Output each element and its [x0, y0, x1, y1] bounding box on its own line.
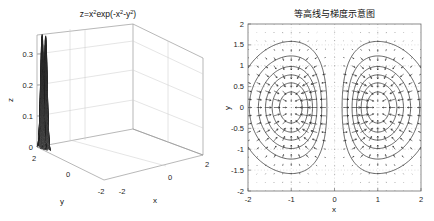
title-tail: ) [133, 9, 136, 19]
contour-y-tick-5: -0.5 [231, 124, 244, 133]
contour-x-tick-2: 0 [332, 195, 336, 204]
contour-x-tick-1: -1 [288, 195, 295, 204]
z-axis-label: z [6, 98, 15, 102]
y-tick-2: -2 [98, 187, 105, 196]
z-tick-3: 0.3 [23, 50, 33, 59]
z-tick-1: 0.1 [23, 112, 33, 121]
contour-plot-title: 等高线与梯度示意图 [294, 8, 375, 19]
surface-plot-panel: z=x2exp(-x2-y2) [0, 0, 217, 221]
contour-y-tick-2: 1 [240, 61, 244, 70]
contour-y-tick-8: -2 [237, 187, 244, 196]
contour-x-tick-4: 2 [419, 195, 423, 204]
z-tick-2: 0.2 [23, 81, 33, 90]
contour-y-tick-7: -1.5 [231, 166, 244, 175]
y-tick-0: 2 [32, 154, 36, 163]
y-tick-1: 0 [66, 170, 70, 179]
surface-plot-svg: z=x2exp(-x2-y2) [0, 0, 217, 221]
x-tick-2: 2 [205, 160, 209, 169]
figure-canvas: z=x2exp(-x2-y2) [0, 0, 434, 221]
contour-plot-panel: 等高线与梯度示意图 21.510.50-0.5-1-1.5-2 -2-1012 … [217, 0, 434, 221]
z-tick-0: 0 [29, 143, 33, 152]
contour-y-tick-6: -1 [237, 145, 244, 154]
contour-y-tick-3: 0.5 [234, 82, 244, 91]
surface-mesh [37, 35, 51, 152]
contour-plot-svg: 等高线与梯度示意图 21.510.50-0.5-1-1.5-2 -2-1012 … [217, 0, 434, 221]
contour-y-tick-4: 0 [240, 103, 244, 112]
contour-y-tick-1: 1.5 [234, 40, 244, 49]
x-tick-0: -2 [119, 187, 126, 196]
z-axis-ticks: 0 0.1 0.2 0.3 [23, 50, 41, 152]
title-lead: z=x [80, 9, 94, 19]
quiver-arrows [248, 24, 421, 191]
title-mid: exp(-x [96, 9, 120, 19]
contour-x-axis-label: x [332, 205, 336, 214]
contour-y-axis-label: y [223, 106, 232, 110]
surface-plot-title: z=x2exp(-x2-y2) [80, 9, 137, 19]
contour-y-tick-0: 2 [240, 20, 244, 29]
x-tick-1: 0 [168, 173, 172, 182]
contour-x-tick-3: 1 [376, 195, 380, 204]
contour-x-tick-0: -2 [245, 195, 252, 204]
y-axis-label: y [60, 197, 64, 206]
x-axis-label: x [153, 196, 157, 205]
